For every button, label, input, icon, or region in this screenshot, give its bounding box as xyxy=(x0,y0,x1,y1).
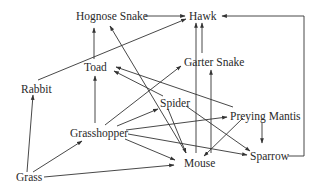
node-hawk: Hawk xyxy=(189,11,216,23)
edge-grass-rabbit xyxy=(27,95,33,172)
edge-grasshopper-garter xyxy=(105,66,181,125)
node-preying-mantis: Preying Mantis xyxy=(230,111,301,123)
node-grasshopper: Grasshopper xyxy=(70,128,128,140)
node-hognose-snake: Hognose Snake xyxy=(76,11,148,23)
edge-grasshopper-sparrow xyxy=(128,134,247,155)
edge-grass-mouse xyxy=(44,165,174,177)
edge-rabbit-hawk xyxy=(38,19,186,80)
node-toad: Toad xyxy=(84,62,107,74)
node-sparrow: Sparrow xyxy=(250,151,289,163)
node-mouse: Mouse xyxy=(184,158,215,170)
node-rabbit: Rabbit xyxy=(21,84,52,96)
node-spider: Spider xyxy=(160,98,190,110)
edge-sparrow-hawk xyxy=(222,16,304,156)
edge-grasshopper-mantis xyxy=(126,117,227,130)
node-grass: Grass xyxy=(16,172,42,184)
edge-spider-mouse xyxy=(168,109,186,153)
edge-grasshopper-mouse xyxy=(125,139,175,160)
edge-grass-grasshopper xyxy=(33,141,82,172)
edge-mantis-mouse xyxy=(204,118,243,156)
edge-grasshopper-spider xyxy=(117,109,158,126)
node-garter-snake: Garter Snake xyxy=(184,57,244,69)
